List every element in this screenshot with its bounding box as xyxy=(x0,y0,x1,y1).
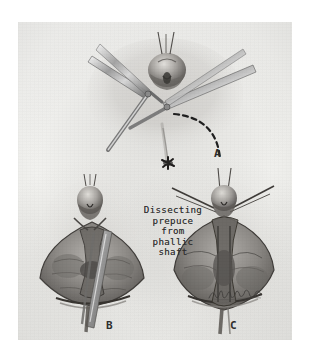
artist-signature xyxy=(207,286,263,302)
panel-label-b: B xyxy=(106,320,113,331)
caption-block: Dissecting prepuce from phallic shaft xyxy=(136,205,210,258)
scanned-plate: A xyxy=(18,22,292,340)
caption-line-5: shaft xyxy=(136,247,210,258)
caption-line-1: Dissecting xyxy=(136,205,210,216)
panel-label-a: A xyxy=(214,148,221,159)
illustration-figure: A xyxy=(0,0,310,362)
panel-a: A xyxy=(70,32,260,172)
panel-label-c: C xyxy=(230,320,237,331)
